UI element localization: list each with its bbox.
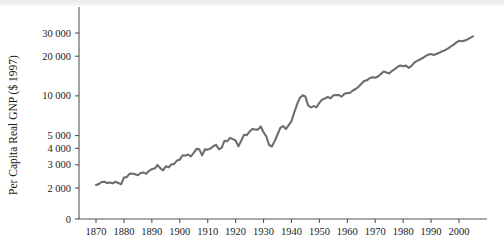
series-line-per-capita-real-gnp xyxy=(96,36,473,185)
x-tick-label: 1950 xyxy=(309,226,330,237)
y-tick-label: 5 000 xyxy=(47,130,71,141)
y-tick-label: 0 xyxy=(66,214,71,225)
x-tick-label: 1940 xyxy=(281,226,302,237)
x-tick-label: 1890 xyxy=(141,226,162,237)
y-tick-label: 30 000 xyxy=(42,28,71,39)
y-axis: 02 0003 0004 0005 00010 00020 00030 000 xyxy=(42,7,79,225)
y-tick-label: 2 000 xyxy=(47,183,71,194)
y-axis-title: Per Capita Real GNP ($ 1997) xyxy=(7,55,20,195)
x-tick-label: 1990 xyxy=(421,226,442,237)
chart-canvas: Per Capita Real GNP ($ 1997) 02 0003 000… xyxy=(0,0,504,245)
x-axis: 1870188018901900191019201930194019501960… xyxy=(79,219,487,237)
x-tick-label: 2000 xyxy=(449,226,470,237)
y-tick-label: 10 000 xyxy=(42,90,71,101)
chart-figure: Per Capita Real GNP ($ 1997) 02 0003 000… xyxy=(0,0,504,245)
y-tick-label: 20 000 xyxy=(42,51,71,62)
x-tick-label: 1930 xyxy=(253,226,274,237)
x-tick-label: 1870 xyxy=(86,226,107,237)
y-tick-label: 4 000 xyxy=(47,143,71,154)
x-tick-label: 1980 xyxy=(393,226,414,237)
y-tick-label: 3 000 xyxy=(47,159,71,170)
x-tick-label: 1880 xyxy=(113,226,134,237)
x-tick-label: 1900 xyxy=(169,226,190,237)
data-series xyxy=(96,36,473,185)
x-tick-label: 1960 xyxy=(337,226,358,237)
x-tick-label: 1910 xyxy=(197,226,218,237)
x-tick-label: 1970 xyxy=(365,226,386,237)
y-axis-title-text: Per Capita Real GNP ($ 1997) xyxy=(7,55,20,195)
x-tick-label: 1920 xyxy=(225,226,246,237)
